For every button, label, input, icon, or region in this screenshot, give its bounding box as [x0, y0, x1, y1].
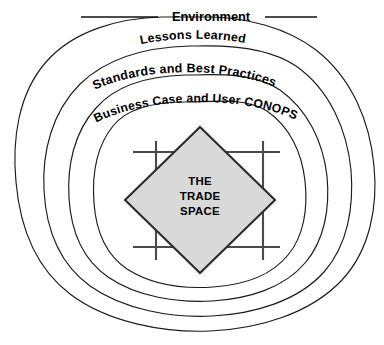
ring-label-business-case-conops: Business Case and User CONOPS	[92, 91, 301, 125]
ring-label-lessons-learned: Lessons Learned	[139, 28, 247, 47]
trade-space-line-2: TRADE	[180, 190, 221, 202]
ring-label-standards-best-practices: Standards and Best Practices	[90, 61, 278, 92]
trade-space-diamond: THE TRADE SPACE	[125, 127, 275, 273]
trade-space-diagram: Environment Lessons Learned Standards an…	[0, 0, 384, 345]
diagram-canvas: Environment Lessons Learned Standards an…	[0, 0, 384, 345]
trade-space-line-1: THE	[188, 175, 212, 187]
ring-label-environment: Environment	[172, 9, 251, 24]
trade-space-line-3: SPACE	[180, 205, 220, 217]
